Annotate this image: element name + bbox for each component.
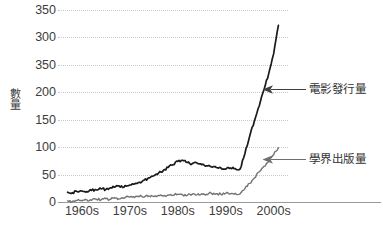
y-axis-tick-label: 0	[22, 196, 56, 209]
annotation-film-releases: 電影發行量	[262, 81, 366, 97]
plot-area	[58, 10, 288, 202]
left-arrow-icon	[262, 84, 306, 95]
y-axis-tick-labels: 350300350200150100500	[22, 0, 56, 234]
x-axis-tick-label: 1970s	[104, 204, 156, 219]
series-line-academic-publications	[68, 148, 279, 203]
y-axis-tick-label: 50	[22, 168, 56, 181]
x-axis-tick-labels: 1960s1970s1980s1990s2000s	[58, 204, 298, 224]
left-arrow-icon	[262, 154, 306, 165]
chart-figure: 數量 350300350200150100500 1960s1970s1980s…	[0, 0, 383, 234]
y-axis-tick-label: 300	[22, 31, 56, 44]
annotation-academic-publications: 學界出版量	[262, 151, 366, 167]
y-axis-title: 數量	[5, 88, 21, 110]
x-axis-tick-label: 1990s	[200, 204, 252, 219]
x-axis-tick-label: 1960s	[56, 204, 108, 219]
y-axis-tick-label: 350	[22, 58, 56, 71]
annotation-academic-publications-label: 學界出版量	[309, 152, 366, 166]
annotation-film-releases-label: 電影發行量	[309, 82, 366, 96]
y-axis-tick-label: 200	[22, 86, 56, 99]
x-axis-tick-label: 2000s	[248, 204, 300, 219]
series-container	[58, 10, 288, 202]
x-axis-tick-label: 1980s	[152, 204, 204, 219]
y-axis-tick-label: 350	[22, 4, 56, 17]
y-axis-tick-label: 150	[22, 113, 56, 126]
x-axis-line	[58, 202, 381, 203]
y-axis-tick-label: 100	[22, 141, 56, 154]
series-line-film-releases	[68, 25, 279, 193]
